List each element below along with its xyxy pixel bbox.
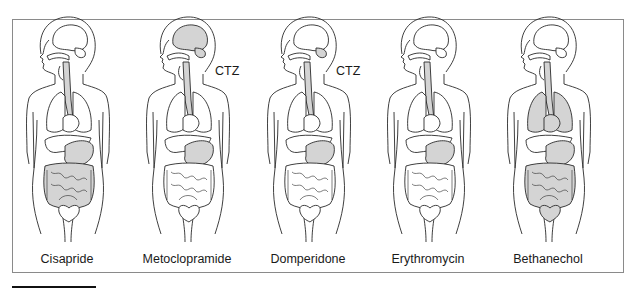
panel-cisapride: Cisapride [7,0,127,291]
drug-label: Domperidone [248,252,368,266]
ctz-label: CTZ [336,64,360,78]
ctz-label: CTZ [215,64,239,78]
drug-label: Erythromycin [368,252,488,266]
anatomy-figure-icon [7,0,127,250]
anatomy-figure-icon [248,0,368,250]
panel-domperidone: DomperidoneCTZ [248,0,368,291]
anatomy-figure-icon [488,0,608,250]
drug-label: Bethanechol [488,252,608,266]
drug-label: Metoclopramide [127,252,247,266]
panel-erythromycin: Erythromycin [368,0,488,291]
panel-bethanechol: Bethanechol [488,0,608,291]
panel-metoclopramide: MetoclopramideCTZ [127,0,247,291]
drug-label: Cisapride [7,252,127,266]
footnote-rule [12,286,96,288]
anatomy-figure-icon [127,0,247,250]
anatomy-figure-icon [368,0,488,250]
